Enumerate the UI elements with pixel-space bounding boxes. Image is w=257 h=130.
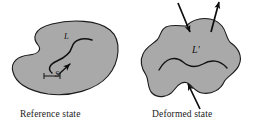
deformed-body-group [141, 2, 240, 109]
caption-deformed-state: Deformed state [152, 109, 212, 119]
segment-S-label: S [55, 70, 59, 79]
caption-reference-state: Reference state [20, 109, 81, 119]
deformed-body-shape [141, 19, 240, 97]
material-line-L-label: L [64, 31, 69, 41]
material-line-L-prime-label: L' [192, 44, 200, 55]
